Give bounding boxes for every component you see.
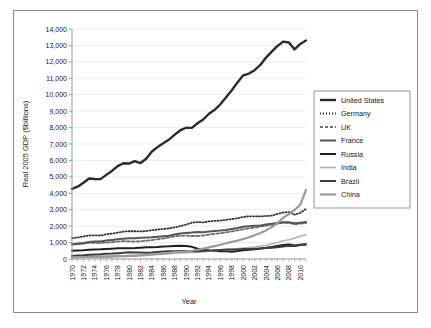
x-tick-label: 1970 (69, 265, 76, 281)
x-tick-label: 2004 (263, 265, 270, 281)
y-tick-label: 8,000 (49, 124, 67, 131)
x-tick-label: 2008 (285, 265, 292, 281)
x-axis-ticks: 1970197219741976197819801982198419861988… (69, 259, 307, 281)
x-tick-label: 1998 (228, 265, 235, 281)
x-tick-label: 1982 (137, 265, 144, 281)
y-tick-label: 14,000 (46, 26, 68, 33)
x-tick-label: 2002 (251, 265, 258, 281)
x-tick-label: 1984 (148, 265, 155, 281)
x-tick-label: 1978 (114, 265, 121, 281)
figure-container: 01,0002,0003,0004,0005,0006,0007,0008,00… (13, 10, 418, 313)
y-axis-ticks: 01,0002,0003,0004,0005,0006,0007,0008,00… (46, 26, 72, 263)
y-tick-label: 13,000 (46, 42, 68, 49)
legend-label-russia: Russia (341, 150, 363, 159)
x-tick-label: 2000 (240, 265, 247, 281)
legend-label-france: France (341, 136, 363, 145)
x-tick-label: 1994 (205, 265, 212, 281)
y-axis-title: Real 2005 GDP ($billions) (21, 100, 30, 187)
legend-label-india: India (341, 163, 357, 172)
y-tick-label: 9,000 (49, 108, 67, 115)
x-tick-label: 2010 (297, 265, 304, 281)
x-tick-label: 2006 (274, 265, 281, 281)
x-tick-label: 1988 (171, 265, 178, 281)
y-tick-label: 4,000 (49, 190, 67, 197)
y-tick-label: 2,000 (49, 223, 67, 230)
y-tick-label: 0 (63, 256, 67, 263)
x-tick-label: 1986 (160, 265, 167, 281)
x-tick-label: 1980 (126, 265, 133, 281)
x-tick-label: 1972 (80, 265, 87, 281)
series-lines (72, 41, 306, 258)
x-tick-label: 1990 (183, 265, 190, 281)
legend-label-germany: Germany (341, 109, 371, 118)
legend-label-uk: UK (341, 123, 351, 132)
y-tick-label: 3,000 (49, 206, 67, 213)
x-tick-label: 1974 (91, 265, 98, 281)
gdp-line-chart: 01,0002,0003,0004,0005,0006,0007,0008,00… (14, 11, 416, 311)
y-tick-label: 12,000 (46, 58, 68, 65)
y-tick-label: 6,000 (49, 157, 67, 164)
x-axis-title: Year (181, 297, 197, 306)
x-tick-label: 1992 (194, 265, 201, 281)
legend-label-united-states: United States (341, 96, 385, 105)
legend-label-brazil: Brazil (341, 177, 359, 186)
y-tick-label: 1,000 (49, 239, 67, 246)
series-line-united-states (72, 41, 306, 189)
y-tick-label: 7,000 (49, 141, 67, 148)
y-tick-label: 5,000 (49, 173, 67, 180)
legend: United StatesGermanyUKFranceRussiaIndiaB… (314, 91, 410, 208)
y-tick-label: 11,000 (46, 75, 67, 82)
x-tick-label: 1996 (217, 265, 224, 281)
y-tick-label: 10,000 (46, 91, 68, 98)
legend-label-china: China (341, 190, 360, 199)
x-tick-label: 1976 (103, 265, 110, 281)
